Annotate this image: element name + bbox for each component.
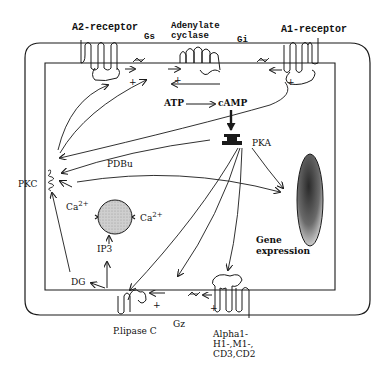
gene-expression-label-line2: expression xyxy=(256,246,310,257)
gs-protein-shape xyxy=(133,58,145,62)
plipase-c-label: P.lipase C xyxy=(113,326,157,337)
pdbu-label: PDBu xyxy=(107,159,133,170)
plus-sign-a1: + xyxy=(287,77,295,88)
adenylate-cyclase-shape xyxy=(180,47,220,75)
atp-label: ATP xyxy=(164,98,184,109)
ca-label-left: Ca2+ xyxy=(66,199,89,213)
camp-label: cAMP xyxy=(218,98,247,109)
gz-protein-shape xyxy=(188,292,200,296)
gi-label: Gi xyxy=(237,35,248,46)
pathway-diagram xyxy=(0,0,378,378)
pkc-shape xyxy=(48,170,54,191)
gs-label: Gs xyxy=(144,32,155,43)
pka-icon xyxy=(222,134,242,145)
plipase-c-shape xyxy=(118,290,146,314)
gz-label: Gz xyxy=(173,319,185,330)
endoplasmic-reticulum xyxy=(98,200,132,234)
plus-sign-gz: + xyxy=(153,300,161,311)
receptors-bottom-label-line3: CD3,CD2 xyxy=(213,349,256,360)
gi-protein-shape xyxy=(257,58,269,62)
ca-label-right: Ca2+ xyxy=(140,210,163,224)
pkc-label: PKC xyxy=(18,179,37,190)
a2-receptor-shape xyxy=(81,40,120,81)
dg-label: DG xyxy=(71,277,85,288)
ip3-label: IP3 xyxy=(97,244,112,255)
gene-expression-label-line1: Gene xyxy=(256,235,282,246)
plus-sign-alpha1: + xyxy=(210,303,218,314)
a2-receptor-label: A2-receptor xyxy=(72,22,138,33)
alpha1-receptor-shape xyxy=(212,275,249,318)
a1-receptor-label: A1-receptor xyxy=(281,24,347,35)
pka-label: PKA xyxy=(252,138,271,149)
plus-sign-gs: + xyxy=(129,77,137,88)
nucleus xyxy=(297,154,323,246)
plus-sign-ac: + xyxy=(174,75,182,86)
adenylate-cyclase-label-line2: cyclase xyxy=(171,31,209,42)
